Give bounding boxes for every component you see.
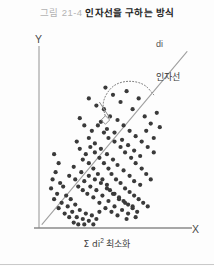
scatter-point <box>137 96 141 100</box>
scatter-point <box>94 188 98 192</box>
scatter-point <box>114 177 118 181</box>
leader-curve <box>103 81 154 116</box>
x-axis-label: X <box>192 223 199 235</box>
scatter-point <box>87 136 91 140</box>
scatter-point <box>128 129 132 133</box>
scatter-point <box>112 131 116 135</box>
scatter-point <box>97 156 101 160</box>
scatter-point <box>91 195 95 199</box>
scatter-point <box>94 217 98 221</box>
bottom-divider <box>0 264 214 265</box>
scatter-point <box>105 152 109 156</box>
scatter-point <box>121 199 125 203</box>
scatter-point <box>121 168 125 172</box>
scatter-point <box>118 100 122 104</box>
scatter-point <box>72 165 76 169</box>
scatter-point <box>121 123 125 127</box>
scatter-point <box>90 213 94 217</box>
scatter-point <box>131 107 135 111</box>
scatter-point <box>94 104 98 108</box>
scatter-point <box>78 116 82 120</box>
residual-segment <box>99 102 110 118</box>
scatter-point <box>140 140 144 144</box>
scatter-point <box>81 188 85 192</box>
scatter-point <box>102 131 106 135</box>
scatter-point <box>158 125 162 129</box>
scatter-point <box>118 181 122 185</box>
scatter-point <box>50 177 54 181</box>
scatter-point <box>93 150 97 154</box>
scatter-point <box>105 127 109 131</box>
scatter-point <box>99 147 103 151</box>
scatter-point <box>132 194 136 198</box>
scatter-point <box>103 86 107 90</box>
scatter-point <box>100 177 104 181</box>
scatter-point <box>78 208 82 212</box>
scatter-point <box>144 129 148 133</box>
scatter-point <box>105 183 109 187</box>
scatter-point <box>63 212 67 216</box>
scatter-point <box>55 192 59 196</box>
scatter-point <box>117 195 121 199</box>
scatter-point <box>79 170 83 174</box>
scatter-point <box>108 188 112 192</box>
scatter-point <box>106 136 110 140</box>
scatter-point <box>90 129 94 133</box>
figure-root: 그림 21-4인자선을 구하는 방식 Y X di 인자선 Σ di2 최소화 <box>0 0 214 266</box>
scatter-point <box>85 192 89 196</box>
scatter-point <box>155 111 159 115</box>
scatter-point <box>82 179 86 183</box>
scatter-point <box>75 215 79 219</box>
scatter-point <box>96 123 100 127</box>
scatter-point <box>115 163 119 167</box>
scatter-point <box>52 197 56 201</box>
scatter-point <box>97 210 101 214</box>
scatter-point <box>109 172 113 176</box>
scatter-point <box>96 172 100 176</box>
scatter-point <box>60 201 64 205</box>
scatter-point <box>132 149 136 153</box>
scatter-point <box>131 206 135 210</box>
scatter-point <box>141 201 145 205</box>
scatter-point <box>115 118 119 122</box>
scatter-point <box>111 93 115 97</box>
scatter-point <box>115 213 119 217</box>
scatter-point <box>152 150 156 154</box>
scatter-point <box>144 172 148 176</box>
scatter-point <box>64 194 68 198</box>
scatter-point <box>149 122 153 126</box>
scatter-point <box>100 194 104 198</box>
scatter-point <box>87 219 91 223</box>
scatter-point <box>91 167 95 171</box>
scatter-point <box>93 177 97 181</box>
y-axis-label: Y <box>35 33 42 45</box>
scatter-point <box>109 210 113 214</box>
scatter-point <box>57 161 61 165</box>
scatter-point <box>81 217 85 221</box>
scatter-point <box>146 204 150 208</box>
scatter-point <box>134 134 138 138</box>
scatter-point <box>72 221 76 225</box>
scatter-point <box>112 140 116 144</box>
scatter-point <box>84 212 88 216</box>
objective-superscript: 2 <box>100 237 104 244</box>
scatter-point <box>123 150 127 154</box>
scatter-point <box>135 210 139 214</box>
scatter-point <box>124 89 128 93</box>
scatter-point <box>57 206 61 210</box>
scatter-point <box>132 179 136 183</box>
scatter-point <box>97 201 101 205</box>
scatter-point <box>120 138 124 142</box>
scatter-point <box>73 203 77 207</box>
scatter-point <box>75 140 79 144</box>
scatter-point <box>73 177 77 181</box>
scatter-point <box>78 147 82 151</box>
scatter-point <box>67 215 71 219</box>
scatter-point <box>82 123 86 127</box>
scatter-point <box>152 136 156 140</box>
scatter-point <box>120 208 124 212</box>
scatter-point <box>61 185 65 189</box>
objective-prefix: Σ di <box>84 239 101 249</box>
scatter-point <box>126 203 130 207</box>
scatter-point <box>69 197 73 201</box>
